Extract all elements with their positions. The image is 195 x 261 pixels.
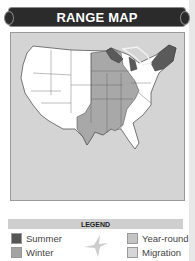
legend-label: Summer (26, 233, 62, 244)
legend-item-winter: Winter (11, 247, 53, 258)
legend-label: Migration (142, 247, 181, 258)
legend-label: Year-round (142, 233, 189, 244)
range-map (10, 32, 185, 201)
year-round-swatch (127, 233, 138, 244)
legend-item-migration: Migration (127, 247, 181, 258)
legend-item-year-round: Year-round (127, 233, 189, 244)
summer-swatch (11, 233, 22, 244)
legend-header: LEGEND (8, 219, 183, 229)
right-edge (189, 0, 195, 261)
title-banner: RANGE MAP (9, 8, 185, 26)
legend-label: Winter (26, 247, 53, 258)
winter-swatch (11, 247, 22, 258)
page-title: RANGE MAP (56, 10, 137, 25)
legend-item-summer: Summer (11, 233, 62, 244)
legend-title: LEGEND (81, 221, 110, 228)
bird-silhouette-icon (82, 233, 110, 259)
migration-swatch (127, 247, 138, 258)
us-map (11, 33, 184, 200)
